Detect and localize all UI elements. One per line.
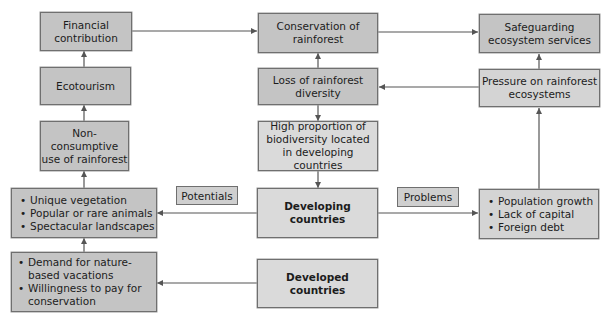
problems-bullets: Population growth Lack of capital Foreig… <box>488 195 593 234</box>
list-item: Spectacular landscapes <box>20 220 155 233</box>
node-label: Safeguarding ecosystem services <box>484 21 596 47</box>
node-demand-list: Demand for nature-based vacations Willin… <box>11 252 157 312</box>
node-financial-contribution: Financial contribution <box>40 12 132 51</box>
edge-label-potentials: Potentials <box>176 186 238 205</box>
list-item: Foreign debt <box>488 221 593 234</box>
node-label: Developing countries <box>278 200 358 226</box>
list-item: Demand for nature-based vacations <box>18 256 152 282</box>
edge-label-problems: Problems <box>397 187 459 207</box>
label-text: Potentials <box>181 190 232 202</box>
node-non-consumptive-use: Non-consumptive use of rainforest <box>40 121 129 171</box>
node-conservation-of-rainforest: Conservation of rainforest <box>258 13 378 53</box>
node-safeguarding-ecosystem-services: Safeguarding ecosystem services <box>479 14 600 53</box>
node-label: Ecotourism <box>56 80 115 93</box>
node-problems-list: Population growth Lack of capital Foreig… <box>479 189 599 239</box>
node-potentials-list: Unique vegetation Popular or rare animal… <box>11 188 157 238</box>
node-developing-countries: Developing countries <box>257 188 378 238</box>
node-pressure-on-ecosystems: Pressure on rainforest ecosystems <box>479 69 600 107</box>
node-label: Developed countries <box>278 271 358 297</box>
potentials-bullets: Unique vegetation Popular or rare animal… <box>20 194 155 233</box>
node-ecotourism: Ecotourism <box>40 67 131 105</box>
node-developed-countries: Developed countries <box>257 259 378 308</box>
list-item: Population growth <box>488 195 593 208</box>
list-item: Unique vegetation <box>20 194 155 207</box>
list-item: Popular or rare animals <box>20 207 155 220</box>
node-label: High proportion of biodiversity located … <box>262 120 374 172</box>
node-label: Loss of rainforest diversity <box>268 74 368 100</box>
list-item: Lack of capital <box>488 208 593 221</box>
node-label: Financial contribution <box>51 19 121 45</box>
label-text: Problems <box>404 191 452 203</box>
demand-bullets: Demand for nature-based vacations Willin… <box>18 256 152 308</box>
node-label: Non-consumptive use of rainforest <box>42 127 128 166</box>
node-high-proportion-biodiversity: High proportion of biodiversity located … <box>258 121 378 171</box>
list-item: Willingness to pay for conservation <box>18 282 152 308</box>
node-label: Pressure on rainforest ecosystems <box>481 75 599 101</box>
node-loss-of-diversity: Loss of rainforest diversity <box>258 68 378 105</box>
node-label: Conservation of rainforest <box>268 20 368 46</box>
